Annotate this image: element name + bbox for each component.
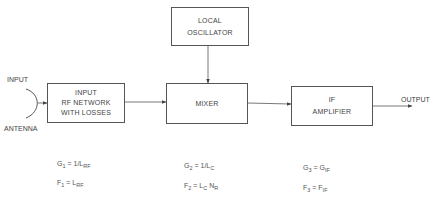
block-line: WITH LOSSES	[61, 108, 111, 118]
block-line: IF	[313, 95, 352, 105]
stage1-noise-equation: F1 = LRF	[57, 179, 84, 188]
stage1-gain-equation: G1 = 1/LRF	[57, 160, 91, 169]
arrow-mixer-to-if	[247, 103, 291, 104]
stage2-noise-equation: F2 = LC NR	[184, 182, 218, 191]
output-label: OUTPUT	[401, 96, 430, 103]
antenna-label: ANTENNA	[4, 125, 37, 132]
local-oscillator-block: LOCAL OSCILLATOR	[171, 7, 249, 46]
block-line: AMPLIFIER	[313, 107, 352, 117]
stage2-gain-equation: G2 = 1/LC	[184, 162, 214, 171]
input-label: INPUT	[7, 76, 28, 83]
block-line: MIXER	[195, 99, 218, 109]
stage3-gain-equation: G3 = GIF	[303, 164, 330, 173]
antenna-icon	[26, 89, 37, 118]
if-amplifier-block: IF AMPLIFIER	[291, 86, 373, 126]
block-line: INPUT	[61, 88, 111, 98]
block-line: LOCAL	[187, 16, 233, 26]
mixer-block: MIXER	[166, 83, 248, 124]
block-line: OSCILLATOR	[187, 28, 233, 38]
stage3-noise-equation: F3 = FIF	[303, 184, 328, 193]
input-rf-network-block: INPUT RF NETWORK WITH LOSSES	[47, 83, 125, 123]
block-line: RF NETWORK	[61, 98, 111, 108]
